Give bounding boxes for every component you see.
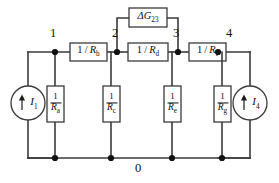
delta-g23-label: ΔG23 [138, 11, 159, 24]
current-source-i1[interactable] [11, 86, 45, 120]
ra-subscript: a [57, 107, 60, 115]
shunt-label-re: 1 Re [167, 92, 178, 115]
ra-denominator-group: Ra [50, 103, 61, 116]
junction-dot-ground-2 [108, 155, 114, 161]
series-label-rf: 1 / Rf [197, 45, 218, 58]
i1-subscript: 1 [34, 103, 38, 111]
source-label-i4: I4 [252, 95, 259, 110]
delta-g-subscript: 23 [151, 16, 158, 24]
junction-dot-node-3 [175, 49, 181, 55]
ra-numerator: 1 [50, 92, 61, 102]
node-label-0: 0 [135, 162, 141, 175]
source-label-i1: I1 [30, 95, 37, 110]
i4-subscript: 4 [256, 103, 260, 111]
junction-dot-node-2 [114, 49, 120, 55]
rf-subscript: f [216, 50, 218, 58]
shunt-label-ra: 1 Ra [50, 92, 61, 115]
rd-subscript: d [156, 50, 160, 58]
node-label-2: 2 [112, 27, 118, 40]
circuit-schematic-canvas [0, 0, 279, 183]
series-label-rd: 1 / Rd [137, 45, 159, 58]
rc-subscript: c [113, 107, 116, 115]
rb-subscript: b [96, 50, 100, 58]
re-numerator: 1 [167, 92, 178, 102]
junction-dot-ground-3 [169, 155, 175, 161]
rg-subscript: g [224, 107, 228, 115]
delta-wire-left [117, 18, 129, 52]
re-denominator-group: Re [167, 103, 178, 116]
rg-numerator: 1 [217, 92, 228, 102]
node-label-3: 3 [173, 27, 179, 40]
junction-dot-node-1 [52, 49, 58, 55]
current-source-i4[interactable] [233, 86, 267, 120]
rg-denominator-group: Rg [217, 103, 228, 116]
re-subscript: e [174, 107, 177, 115]
junction-dot-ground-4 [219, 155, 225, 161]
series-label-rb: 1 / Rb [77, 45, 99, 58]
shunt-label-rc: 1 Rc [106, 92, 117, 115]
node-label-4: 4 [226, 27, 232, 40]
rc-numerator: 1 [106, 92, 117, 102]
node-label-1: 1 [50, 27, 56, 40]
shunt-label-rg: 1 Rg [217, 92, 228, 115]
circuit-diagram: 1 2 3 4 0 ΔG23 1 / Rb 1 / Rd 1 / Rf 1 Ra… [0, 0, 279, 183]
delta-g-symbol: ΔG [138, 10, 152, 21]
rc-denominator-group: Rc [106, 103, 117, 116]
junction-dot-ground-1 [52, 155, 58, 161]
